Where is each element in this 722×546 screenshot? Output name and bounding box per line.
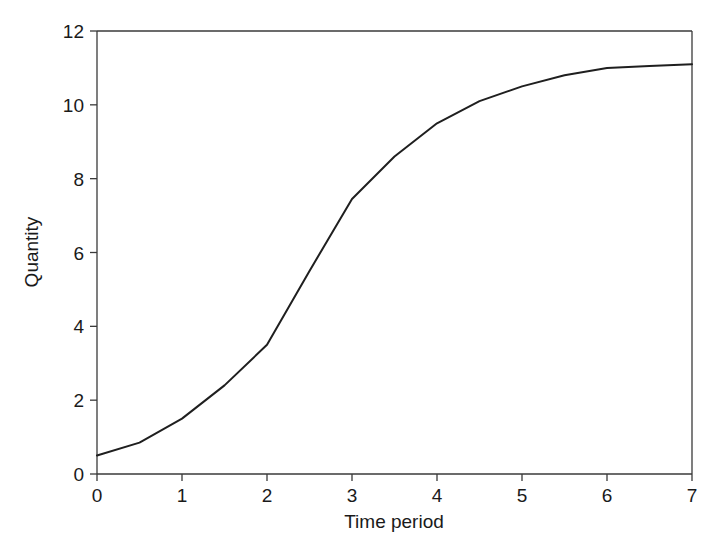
data-series-line	[97, 64, 692, 455]
x-axis-tick-label: 6	[602, 485, 613, 506]
y-axis-tick-label: 2	[73, 390, 84, 411]
y-axis-tick-label: 6	[73, 243, 84, 264]
line-chart: 01234567 024681012 Time period Quantity	[0, 0, 722, 546]
chart-container: 01234567 024681012 Time period Quantity	[0, 0, 722, 546]
y-axis-tick-label: 12	[63, 21, 84, 42]
y-axis-tick-labels: 024681012	[63, 21, 85, 485]
x-axis-tick-labels: 01234567	[92, 485, 698, 506]
y-axis-tick-label: 10	[63, 95, 84, 116]
y-axis-tick-label: 4	[73, 316, 84, 337]
y-axis-tick-label: 0	[73, 464, 84, 485]
x-axis-tick-label: 1	[177, 485, 188, 506]
chart-axes	[97, 31, 692, 474]
x-axis-tick-label: 0	[92, 485, 103, 506]
x-axis-tick-label: 7	[687, 485, 698, 506]
y-axis-tick-label: 8	[73, 169, 84, 190]
x-axis-title: Time period	[344, 511, 444, 532]
x-axis-tick-label: 3	[347, 485, 358, 506]
chart-tick-marks	[90, 31, 692, 481]
y-axis-title: Quantity	[21, 216, 42, 287]
x-axis-tick-label: 2	[262, 485, 273, 506]
x-axis-tick-label: 5	[517, 485, 528, 506]
x-axis-tick-label: 4	[432, 485, 443, 506]
